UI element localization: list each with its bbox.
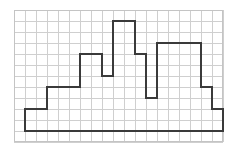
figure-canvas xyxy=(0,0,235,152)
grid-polygon-svg xyxy=(0,0,235,152)
grid-lines xyxy=(14,10,223,142)
